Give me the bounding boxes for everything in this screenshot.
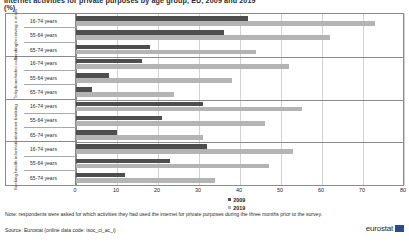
legend-item-2019: 2019 <box>228 204 245 211</box>
x-tick-label: 20 <box>154 187 160 193</box>
eurostat-flag-icon <box>395 225 404 232</box>
bar-2019 <box>76 78 232 83</box>
x-tick-label: 70 <box>359 187 365 193</box>
category-group-emails: Sending/receiving e-mails 16-74 years 55… <box>6 14 76 57</box>
eurostat-logo: eurostat <box>366 224 404 233</box>
category-group-health: Seeking health information 16-74 years 5… <box>6 142 76 185</box>
plot-area <box>76 14 403 185</box>
group-separator <box>76 57 403 58</box>
x-tick-label: 40 <box>236 187 242 193</box>
chart-frame: Sending/receiving e-mails 16-74 years 55… <box>5 13 404 186</box>
bar-2009 <box>76 173 125 178</box>
bar-2019 <box>76 64 289 69</box>
group-name-banking: Internet banking <box>7 100 24 142</box>
x-tick-label: 60 <box>318 187 324 193</box>
age-list-emails: 16-74 years 55-64 years 65-74 years <box>24 14 76 56</box>
age-list-calls: 16-74 years 55-64 years 65-74 years <box>24 57 76 99</box>
legend-item-2009: 2009 <box>228 196 245 203</box>
bar-2019 <box>76 178 215 183</box>
legend-label: 2009 <box>233 197 245 203</box>
bar-2019 <box>76 107 302 112</box>
bar-2009 <box>76 102 203 107</box>
bar-2019 <box>76 121 265 126</box>
bar-2019 <box>76 164 269 169</box>
bar-2019 <box>76 35 330 40</box>
group-name-emails: Sending/receiving e-mails <box>7 14 24 56</box>
chart-note: Note: respondents were asked for which a… <box>5 211 335 217</box>
age-row: 16-74 years <box>24 57 76 71</box>
age-row: 55-64 years <box>24 157 76 171</box>
age-row: 55-64 years <box>24 71 76 85</box>
group-name-calls: Telephone/video calls <box>7 57 24 99</box>
category-label-column: Sending/receiving e-mails 16-74 years 55… <box>6 14 76 185</box>
x-tick-label: 80 <box>400 187 406 193</box>
chart-page: Internet activities for private purposes… <box>0 0 409 248</box>
chart-title: Internet activities for private purposes… <box>4 0 404 5</box>
bar-2009 <box>76 30 224 35</box>
age-row: 65-74 years <box>24 85 76 99</box>
x-tick-label: 10 <box>113 187 119 193</box>
group-separator <box>76 100 403 101</box>
category-group-banking: Internet banking 16-74 years 55-64 years… <box>6 100 76 143</box>
bar-2009 <box>76 45 150 50</box>
gridline-80 <box>404 14 405 185</box>
bar-2019 <box>76 149 293 154</box>
legend-swatch-icon <box>228 198 231 201</box>
legend-label: 2019 <box>233 205 245 211</box>
legend-swatch-icon <box>228 206 231 209</box>
chart-legend: 2009 2019 <box>228 196 245 212</box>
age-row: 55-64 years <box>24 28 76 42</box>
chart-source: Source: Eurostat (online data code: isoc… <box>5 227 335 233</box>
age-row: 65-74 years <box>24 43 76 57</box>
bar-2009 <box>76 144 207 149</box>
age-row: 16-74 years <box>24 14 76 28</box>
bar-2009 <box>76 16 248 21</box>
age-row: 16-74 years <box>24 100 76 114</box>
bar-2019 <box>76 92 174 97</box>
x-tick-label: 50 <box>277 187 283 193</box>
category-group-calls: Telephone/video calls 16-74 years 55-64 … <box>6 57 76 100</box>
age-row: 55-64 years <box>24 114 76 128</box>
eurostat-logo-text: eurostat <box>366 224 393 233</box>
age-list-health: 16-74 years 55-64 years 65-74 years <box>24 142 76 185</box>
x-tick-label: 0 <box>74 187 77 193</box>
bar-2009 <box>76 159 170 164</box>
x-tick-label: 30 <box>195 187 201 193</box>
bar-2009 <box>76 73 109 78</box>
age-list-banking: 16-74 years 55-64 years 65-74 years <box>24 100 76 142</box>
bar-2019 <box>76 21 375 26</box>
bar-2019 <box>76 50 256 55</box>
bar-2019 <box>76 135 203 140</box>
group-separator <box>76 142 403 143</box>
bar-2009 <box>76 59 142 64</box>
bar-2009 <box>76 130 117 135</box>
group-name-health: Seeking health information <box>7 142 24 185</box>
age-row: 65-74 years <box>24 128 76 142</box>
bar-2009 <box>76 116 162 121</box>
age-row: 65-74 years <box>24 171 76 185</box>
age-row: 16-74 years <box>24 142 76 156</box>
bar-2009 <box>76 87 92 92</box>
